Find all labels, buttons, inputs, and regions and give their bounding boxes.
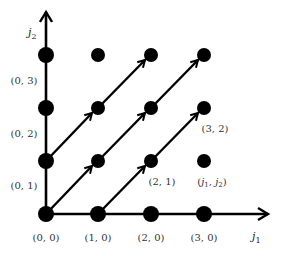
point-2-1 xyxy=(144,154,158,168)
j2-axis-label: j2 xyxy=(25,26,37,41)
point-3-1 xyxy=(197,154,211,168)
point-2-3 xyxy=(144,48,158,62)
label-0-0: (0, 0) xyxy=(33,232,60,243)
point-3-2 xyxy=(197,101,211,115)
point-0-0 xyxy=(38,206,54,222)
label-3-0: (3, 0) xyxy=(191,232,218,243)
point-2-0 xyxy=(143,206,159,222)
point-1-2 xyxy=(91,101,105,115)
label-0-1: (0, 1) xyxy=(11,180,38,191)
point-1-0 xyxy=(90,206,106,222)
label-1-0: (1, 0) xyxy=(85,232,112,243)
point-1-3 xyxy=(91,48,105,62)
point-3-3 xyxy=(197,48,211,62)
label-2-0: (2, 0) xyxy=(138,232,165,243)
point-0-1 xyxy=(38,153,54,169)
point-3-0 xyxy=(196,206,212,222)
point-1-1 xyxy=(91,154,105,168)
point-2-2 xyxy=(144,101,158,115)
point-0-3 xyxy=(38,47,54,63)
lattice-diagram: j2 j1 (0, 0) (1, 0) (2, 0) (3, 0) (0, 1)… xyxy=(0,0,284,256)
j1-axis-label: j1 xyxy=(249,230,261,245)
label-2-1: (2, 1) xyxy=(149,176,176,187)
label-3-2: (3, 2) xyxy=(202,123,229,134)
label-0-3: (0, 3) xyxy=(11,75,38,86)
label-0-2: (0, 2) xyxy=(11,128,38,139)
point-0-2 xyxy=(38,100,54,116)
label-generic-point: (j1, j2) xyxy=(197,176,226,189)
